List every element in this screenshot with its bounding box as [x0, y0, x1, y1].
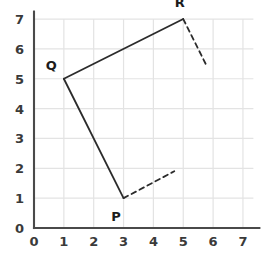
x-tick-label: 7	[238, 234, 247, 249]
point-label-r: R	[175, 0, 185, 10]
coordinate-plane-plot: 01234567 01234567 PQR	[0, 0, 265, 266]
y-tick-label: 5	[15, 72, 24, 87]
x-tick-label: 1	[59, 234, 68, 249]
x-tick-label: 5	[179, 234, 188, 249]
point-labels: PQR	[46, 0, 185, 224]
x-tick-label: 3	[119, 234, 128, 249]
x-tick-label: 4	[149, 234, 158, 249]
x-axis-tick-labels: 01234567	[29, 234, 247, 249]
gridlines	[34, 19, 253, 228]
y-tick-label: 4	[15, 102, 24, 117]
point-label-q: Q	[46, 58, 57, 73]
y-axis-tick-labels: 01234567	[15, 12, 24, 236]
ray-from-R	[183, 19, 205, 64]
y-tick-label: 7	[15, 12, 24, 27]
y-tick-label: 1	[15, 191, 24, 206]
point-label-p: P	[111, 209, 121, 224]
axes	[34, 12, 259, 228]
y-tick-label: 6	[15, 42, 24, 57]
x-tick-label: 0	[29, 234, 38, 249]
y-tick-label: 2	[15, 161, 24, 176]
x-tick-label: 6	[209, 234, 218, 249]
y-tick-label: 3	[15, 131, 24, 146]
y-tick-label: 0	[15, 221, 24, 236]
figure-canvas: 01234567 01234567 PQR	[0, 0, 265, 266]
x-tick-label: 2	[89, 234, 98, 249]
ray-from-P	[124, 171, 175, 198]
